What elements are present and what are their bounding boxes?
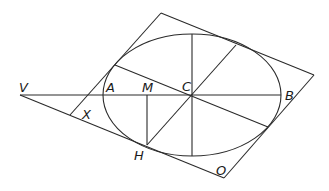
label-H: H — [134, 148, 144, 163]
label-B: B — [285, 88, 294, 103]
label-V: V — [19, 80, 29, 95]
label-M: M — [142, 80, 153, 95]
label-A: A — [105, 80, 115, 95]
parallelogram-top-edge — [161, 13, 314, 75]
label-C: C — [182, 79, 192, 94]
geometry-diagram: V A M C B X H O — [0, 0, 329, 191]
parallelogram-right-edge — [224, 75, 314, 178]
label-X: X — [81, 107, 92, 122]
parallelogram-bottom-edge — [20, 95, 224, 178]
label-O: O — [216, 163, 226, 178]
